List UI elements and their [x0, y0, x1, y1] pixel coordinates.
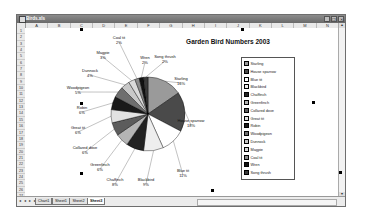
close-button[interactable]: ✕ [338, 16, 344, 22]
data-label: 8% [112, 182, 118, 187]
legend-item: Blue tit [244, 77, 262, 83]
legend-swatch [244, 84, 249, 89]
legend-swatch [244, 162, 249, 167]
resize-handle[interactable] [312, 101, 315, 104]
legend-item: Dunnock [244, 139, 266, 145]
pie-plot: Starling16%House sparrow18%Blue tit11%Bl… [73, 34, 233, 186]
data-label: 4% [87, 73, 93, 78]
legend-item: Woodpigeon [244, 131, 272, 137]
legend-item: House sparrow [244, 69, 276, 75]
legend-item: Coal tit [244, 155, 262, 161]
leader-line [90, 75, 125, 85]
legend-item: Blackbird [244, 84, 266, 90]
legend-swatch [244, 170, 249, 175]
legend-item: Greenfinch [244, 100, 269, 106]
legend-item: Chaffinch [244, 92, 266, 98]
legend-swatch [244, 139, 249, 144]
title-bar[interactable]: Birds.xls _ ❐ ✕ [17, 15, 345, 23]
legend-item: Song thrush [244, 170, 271, 176]
legend-label: Wren [251, 163, 260, 167]
legend-swatch [244, 61, 249, 66]
legend-item: Robin [244, 123, 260, 129]
legend-label: House sparrow [251, 69, 277, 73]
scroll-up-arrow[interactable]: ▲ [339, 23, 345, 28]
legend-label: Coal tit [251, 155, 263, 159]
legend-swatch [244, 116, 249, 121]
legend-swatch [244, 100, 249, 105]
data-label: 3% [100, 55, 106, 60]
data-label: 9% [143, 182, 149, 187]
legend-swatch [244, 108, 249, 113]
legend-item: Collared dove [244, 108, 274, 114]
tab-chart1[interactable]: Chart1 [35, 198, 52, 205]
data-label: 2% [142, 60, 148, 65]
data-label: 6% [79, 110, 85, 115]
legend-item: Magpie [244, 147, 263, 153]
pie-chart-object[interactable]: Garden Bird Numbers 2003 Starling16%Hous… [83, 34, 327, 186]
legend-swatch [244, 131, 249, 136]
legend-swatch [244, 69, 249, 74]
legend-label: Woodpigeon [251, 132, 272, 136]
data-label: 6% [82, 150, 88, 155]
leader-line [103, 57, 132, 81]
data-label: 18% [187, 123, 195, 128]
leader-line [119, 42, 137, 79]
window-title: Birds.xls [26, 15, 45, 23]
data-label: 2% [162, 59, 168, 64]
legend-label: Great tit [251, 116, 265, 120]
data-label: 16% [177, 81, 185, 86]
legend-label: Collared dove [251, 108, 274, 112]
minimize-button[interactable]: _ [324, 16, 330, 22]
restore-button[interactable]: ❐ [331, 16, 337, 22]
data-label: 5% [75, 90, 81, 95]
legend-item: Starling [244, 61, 263, 67]
data-label: 2% [116, 40, 122, 45]
legend-item: Great tit [244, 116, 264, 122]
horizontal-scrollbar[interactable] [197, 199, 337, 206]
sheet-tab-bar: ◂ ◂ ▸ ▸ Chart1 Sheet1 Sheet2 Sheet3 [17, 196, 345, 206]
chart-legend: StarlingHouse sparrowBlue titBlackbirdCh… [241, 57, 295, 180]
legend-swatch [244, 155, 249, 160]
legend-label: Greenfinch [251, 101, 270, 105]
legend-label: Magpie [251, 147, 263, 151]
legend-label: Chaffinch [251, 93, 267, 97]
excel-file-icon [19, 16, 26, 23]
legend-swatch [244, 92, 249, 97]
legend-label: Dunnock [251, 140, 266, 144]
resize-handle[interactable] [339, 171, 342, 174]
resize-handle[interactable] [241, 28, 244, 31]
legend-swatch [244, 147, 249, 152]
data-label: 11% [179, 173, 187, 178]
legend-item: Wren [244, 162, 260, 168]
data-label: 6% [97, 167, 103, 172]
legend-label: Blackbird [251, 85, 267, 89]
resize-handle[interactable] [80, 28, 83, 31]
legend-label: Starling [251, 62, 264, 66]
legend-swatch [244, 77, 249, 82]
legend-swatch [244, 123, 249, 128]
resize-handle[interactable] [211, 189, 214, 192]
legend-label: Song thrush [251, 171, 271, 175]
tab-sheet2[interactable]: Sheet2 [69, 198, 87, 205]
legend-label: Robin [251, 124, 261, 128]
tab-sheet1[interactable]: Sheet1 [52, 198, 70, 205]
legend-label: Blue tit [251, 77, 263, 81]
data-label: 6% [75, 130, 81, 135]
tab-sheet3[interactable]: Sheet3 [87, 198, 105, 205]
